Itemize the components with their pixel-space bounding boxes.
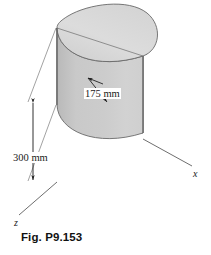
figure-caption: Fig. P9.153 [21, 231, 82, 243]
z-axis-line [19, 182, 57, 215]
height-dimension-label: 300 mm [12, 152, 49, 163]
x-axis-label: x [192, 168, 198, 179]
x-axis: x [143, 139, 198, 179]
figure-drawing: y z x [0, 0, 211, 255]
x-axis-line [143, 139, 192, 166]
height-extension-line-bottom [28, 105, 56, 181]
z-axis-label: z [13, 217, 18, 228]
radius-dimension-label: 175 mm [84, 88, 121, 99]
height-extension-line-top [28, 28, 56, 102]
half-cylinder-shell [57, 4, 158, 139]
z-axis: z [13, 182, 57, 228]
figure-container: y z x [0, 0, 211, 255]
